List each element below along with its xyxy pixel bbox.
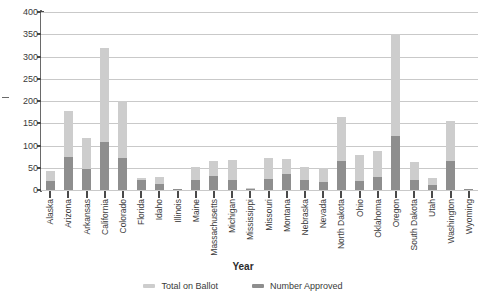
bar-stack[interactable] <box>337 117 346 190</box>
bar-number-approved[interactable] <box>410 180 419 190</box>
bar-total-on-ballot[interactable] <box>446 121 455 190</box>
bar-group[interactable] <box>441 12 459 190</box>
bar-group[interactable] <box>405 12 423 190</box>
bar-stack[interactable] <box>46 171 55 190</box>
bar-total-on-ballot[interactable] <box>282 159 291 190</box>
bar-stack[interactable] <box>464 189 473 190</box>
bar-group[interactable] <box>387 12 405 190</box>
bar-group[interactable] <box>205 12 223 190</box>
bar-number-approved[interactable] <box>228 180 237 190</box>
bar-group[interactable] <box>460 12 478 190</box>
bar-stack[interactable] <box>319 168 328 190</box>
legend-item[interactable]: Total on Ballot <box>143 281 218 291</box>
bar-number-approved[interactable] <box>82 169 91 190</box>
bar-number-approved[interactable] <box>137 180 146 190</box>
bar-stack[interactable] <box>64 111 73 190</box>
bar-total-on-ballot[interactable] <box>64 111 73 190</box>
bar-group[interactable] <box>314 12 332 190</box>
bar-group[interactable] <box>350 12 368 190</box>
bar-total-on-ballot[interactable] <box>209 161 218 190</box>
bar-group[interactable] <box>132 12 150 190</box>
bar-number-approved[interactable] <box>118 158 127 190</box>
bar-number-approved[interactable] <box>64 157 73 190</box>
bar-total-on-ballot[interactable] <box>319 168 328 190</box>
bar-stack[interactable] <box>446 121 455 190</box>
bar-total-on-ballot[interactable] <box>118 101 127 190</box>
bar-number-approved[interactable] <box>100 142 109 190</box>
bar-group[interactable] <box>332 12 350 190</box>
bar-total-on-ballot[interactable] <box>428 178 437 190</box>
bar-group[interactable] <box>223 12 241 190</box>
bar-stack[interactable] <box>137 178 146 190</box>
bar-stack[interactable] <box>173 189 182 190</box>
bar-stack[interactable] <box>355 155 364 190</box>
bar-total-on-ballot[interactable] <box>191 167 200 190</box>
bar-total-on-ballot[interactable] <box>373 151 382 190</box>
bar-number-approved[interactable] <box>428 185 437 190</box>
bar-number-approved[interactable] <box>391 136 400 190</box>
x-tick-label: Florida <box>137 199 146 225</box>
bar-total-on-ballot[interactable] <box>155 177 164 190</box>
bar-stack[interactable] <box>191 167 200 190</box>
bar-total-on-ballot[interactable] <box>137 178 146 190</box>
bar-total-on-ballot[interactable] <box>246 188 255 190</box>
bar-group[interactable] <box>187 12 205 190</box>
bar-number-approved[interactable] <box>173 189 182 190</box>
bar-total-on-ballot[interactable] <box>410 162 419 190</box>
bar-stack[interactable] <box>228 160 237 190</box>
bar-stack[interactable] <box>300 167 309 190</box>
bar-number-approved[interactable] <box>373 177 382 190</box>
bar-total-on-ballot[interactable] <box>100 48 109 190</box>
bar-total-on-ballot[interactable] <box>82 138 91 191</box>
bar-stack[interactable] <box>118 101 127 190</box>
bar-group[interactable] <box>296 12 314 190</box>
bar-number-approved[interactable] <box>446 161 455 190</box>
bar-group[interactable] <box>96 12 114 190</box>
bar-stack[interactable] <box>246 188 255 190</box>
bar-total-on-ballot[interactable] <box>464 189 473 190</box>
bar-group[interactable] <box>369 12 387 190</box>
bar-number-approved[interactable] <box>319 182 328 190</box>
bar-stack[interactable] <box>209 161 218 190</box>
bar-group[interactable] <box>150 12 168 190</box>
bar-number-approved[interactable] <box>300 180 309 190</box>
bar-group[interactable] <box>423 12 441 190</box>
bar-number-approved[interactable] <box>209 176 218 190</box>
bar-stack[interactable] <box>155 177 164 190</box>
bar-number-approved[interactable] <box>46 181 55 190</box>
bar-group[interactable] <box>114 12 132 190</box>
bar-stack[interactable] <box>410 162 419 190</box>
bar-number-approved[interactable] <box>264 179 273 190</box>
bar-group[interactable] <box>278 12 296 190</box>
bar-stack[interactable] <box>100 48 109 190</box>
bar-number-approved[interactable] <box>337 161 346 190</box>
bar-stack[interactable] <box>391 34 400 190</box>
bar-number-approved[interactable] <box>464 189 473 190</box>
bar-group[interactable] <box>59 12 77 190</box>
y-tick-label: 0 <box>4 186 38 195</box>
bar-group[interactable] <box>241 12 259 190</box>
bar-total-on-ballot[interactable] <box>337 117 346 190</box>
bar-total-on-ballot[interactable] <box>355 155 364 190</box>
bar-group[interactable] <box>259 12 277 190</box>
bar-total-on-ballot[interactable] <box>391 34 400 190</box>
bar-stack[interactable] <box>428 178 437 190</box>
bar-number-approved[interactable] <box>191 180 200 190</box>
bar-stack[interactable] <box>264 158 273 190</box>
bar-stack[interactable] <box>82 138 91 191</box>
bar-total-on-ballot[interactable] <box>264 158 273 190</box>
bar-total-on-ballot[interactable] <box>46 171 55 190</box>
legend-item[interactable]: Number Approved <box>252 281 343 291</box>
bar-total-on-ballot[interactable] <box>228 160 237 190</box>
bar-group[interactable] <box>168 12 186 190</box>
bar-total-on-ballot[interactable] <box>173 189 182 190</box>
bar-stack[interactable] <box>373 151 382 190</box>
bar-number-approved[interactable] <box>282 174 291 190</box>
bar-number-approved[interactable] <box>246 189 255 190</box>
bar-group[interactable] <box>41 12 59 190</box>
bar-number-approved[interactable] <box>155 184 164 190</box>
bar-group[interactable] <box>77 12 95 190</box>
bar-stack[interactable] <box>282 159 291 190</box>
bar-total-on-ballot[interactable] <box>300 167 309 190</box>
bar-number-approved[interactable] <box>355 181 364 190</box>
